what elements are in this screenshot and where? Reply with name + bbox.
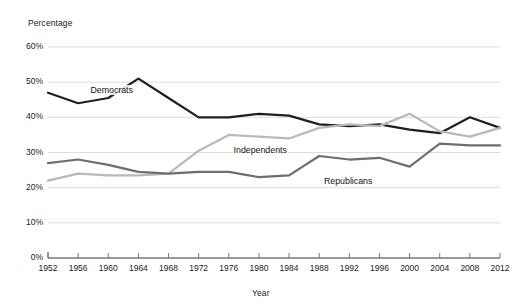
series-label-republicans: Republicans [323, 176, 373, 186]
y-axis-tick-label: 50% [15, 76, 43, 86]
x-axis-tick-label: 2012 [485, 263, 515, 273]
x-axis-tick-label: 1976 [214, 263, 244, 273]
x-axis-tick-label: 2008 [455, 263, 485, 273]
x-axis-tick-label: 1972 [184, 263, 214, 273]
axis-lines [48, 252, 500, 258]
x-axis-tick-label: 1952 [33, 263, 63, 273]
x-axis-tick-label: 1984 [274, 263, 304, 273]
y-axis-tick-label: 60% [15, 41, 43, 51]
x-axis-tick-label: 1980 [244, 263, 274, 273]
x-axis-tick-label: 1964 [123, 263, 153, 273]
x-axis-tick-label: 1968 [154, 263, 184, 273]
x-axis-tick-label: 1992 [334, 263, 364, 273]
series-label-democrats: Democrats [89, 85, 134, 95]
y-axis-tick-label: 20% [15, 182, 43, 192]
y-axis-tick-label: 40% [15, 111, 43, 121]
line-chart: Percentage Year 0%10%20%30%40%50%60% 195… [0, 0, 516, 306]
y-axis-tick-label: 10% [15, 217, 43, 227]
x-axis-tick-label: 2004 [425, 263, 455, 273]
x-axis-tick-label: 2000 [395, 263, 425, 273]
x-axis-ticks [48, 253, 500, 258]
y-axis-tick-label: 30% [15, 147, 43, 157]
x-axis-tick-label: 1996 [364, 263, 394, 273]
y-axis-tick-label: 0% [15, 252, 43, 262]
series-label-independents: Independents [233, 145, 288, 155]
gridlines [48, 47, 500, 223]
x-axis-tick-label: 1988 [304, 263, 334, 273]
x-axis-tick-label: 1960 [93, 263, 123, 273]
x-axis-tick-label: 1956 [63, 263, 93, 273]
